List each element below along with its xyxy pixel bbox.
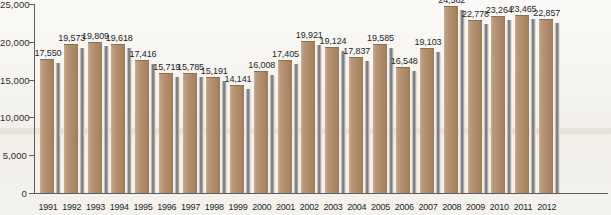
- bar-shadow: [150, 64, 156, 193]
- bar-shadow: [198, 77, 204, 193]
- bar-group: [515, 16, 536, 193]
- y-axis-label: 15,000: [0, 74, 27, 85]
- y-axis-tick: [29, 42, 35, 43]
- y-axis-label: 0: [0, 188, 27, 199]
- bar-group: [40, 60, 61, 193]
- bar: [468, 20, 482, 193]
- x-axis-label: 2010: [490, 202, 509, 212]
- bar: [183, 73, 197, 193]
- bar-group: [349, 58, 370, 193]
- y-axis-tick: [29, 193, 35, 194]
- y-axis-line: [34, 4, 35, 194]
- bar-shadow: [79, 48, 85, 193]
- bar-group: [111, 45, 132, 193]
- x-axis-label: 1993: [86, 202, 105, 212]
- bar: [88, 42, 102, 193]
- bar-value-label: 17,416: [130, 49, 157, 59]
- bar-value-label: 16,008: [248, 60, 275, 70]
- x-axis-label: 1995: [133, 202, 152, 212]
- bar-value-label: 22,857: [533, 8, 560, 18]
- bar-group: [420, 49, 441, 193]
- bar: [420, 48, 434, 193]
- bar-group: [254, 72, 275, 193]
- x-axis-label: 1997: [181, 202, 200, 212]
- bar-shadow: [340, 51, 346, 193]
- bar: [64, 44, 78, 193]
- x-axis-label: 1991: [38, 202, 57, 212]
- bar-group: [159, 74, 180, 193]
- bar-shadow: [435, 52, 441, 193]
- x-axis-label: 2003: [323, 202, 342, 212]
- bar-group: [88, 43, 109, 193]
- bar-shadow: [530, 19, 536, 193]
- bar-group: [206, 78, 227, 193]
- bar: [349, 57, 363, 193]
- bar-value-label: 17,405: [272, 49, 299, 59]
- x-axis-label: 1999: [228, 202, 247, 212]
- bar-shadow: [506, 20, 512, 193]
- bar: [301, 41, 315, 193]
- bar: [325, 47, 339, 193]
- bar-shadow: [554, 23, 560, 193]
- y-axis-tick: [29, 4, 35, 5]
- bar-shadow: [55, 63, 61, 193]
- bar-group: [396, 68, 417, 193]
- x-axis-label: 1992: [62, 202, 81, 212]
- y-axis-tick: [29, 117, 35, 118]
- x-axis-label: 2009: [466, 202, 485, 212]
- bar-value-label: 19,585: [367, 33, 394, 43]
- x-axis-label: 2006: [395, 202, 414, 212]
- bar-shadow: [316, 45, 322, 193]
- y-axis-label: 25,000: [0, 0, 27, 10]
- bar: [135, 60, 149, 193]
- bar: [278, 60, 292, 193]
- bar: [491, 16, 505, 193]
- bar-value-label: 24,582: [438, 0, 465, 5]
- x-axis-label: 2005: [371, 202, 390, 212]
- bar: [515, 15, 529, 193]
- bar: [396, 67, 410, 193]
- bar-shadow: [483, 24, 489, 193]
- x-axis-label: 1994: [110, 202, 129, 212]
- bar-shadow: [293, 64, 299, 193]
- x-axis-label: 2000: [252, 202, 271, 212]
- bar: [254, 71, 268, 193]
- bar-group: [325, 48, 346, 193]
- bar-group: [491, 17, 512, 193]
- bar: [373, 44, 387, 193]
- bar-shadow: [459, 10, 465, 193]
- x-axis-label: 1998: [205, 202, 224, 212]
- bar-group: [539, 20, 560, 193]
- bar-value-label: 14,141: [225, 74, 252, 84]
- x-axis-label: 1996: [157, 202, 176, 212]
- bar-value-label: 19,124: [320, 36, 347, 46]
- y-axis-tick: [29, 80, 35, 81]
- bar-group: [301, 42, 322, 193]
- y-axis-label: 10,000: [0, 112, 27, 123]
- bar-group: [230, 86, 251, 193]
- bar-shadow: [245, 89, 251, 193]
- bar: [444, 6, 458, 193]
- bar-group: [468, 21, 489, 193]
- bar-group: [135, 61, 156, 193]
- y-axis-label: 5,000: [0, 150, 27, 161]
- bar-group: [444, 7, 465, 193]
- x-axis-label: 2001: [276, 202, 295, 212]
- bar-shadow: [126, 48, 132, 193]
- x-axis-label: 2007: [418, 202, 437, 212]
- bar-chart: 05,00010,00015,00020,00025,00017,5501991…: [0, 0, 611, 215]
- bar-value-label: 17,550: [35, 48, 62, 58]
- y-axis-label: 20,000: [0, 36, 27, 47]
- x-axis-label: 2008: [442, 202, 461, 212]
- plot-area: 05,00010,00015,00020,00025,00017,5501991…: [0, 0, 611, 215]
- bar-group: [278, 61, 299, 193]
- bar-shadow: [411, 71, 417, 193]
- y-axis-tick: [29, 155, 35, 156]
- bar-value-label: 16,548: [391, 56, 418, 66]
- bar-value-label: 19,618: [106, 33, 133, 43]
- bar-shadow: [221, 81, 227, 193]
- x-axis-line: [34, 193, 608, 194]
- bar-shadow: [364, 61, 370, 193]
- bar-shadow: [269, 75, 275, 193]
- x-axis-label: 2012: [537, 202, 556, 212]
